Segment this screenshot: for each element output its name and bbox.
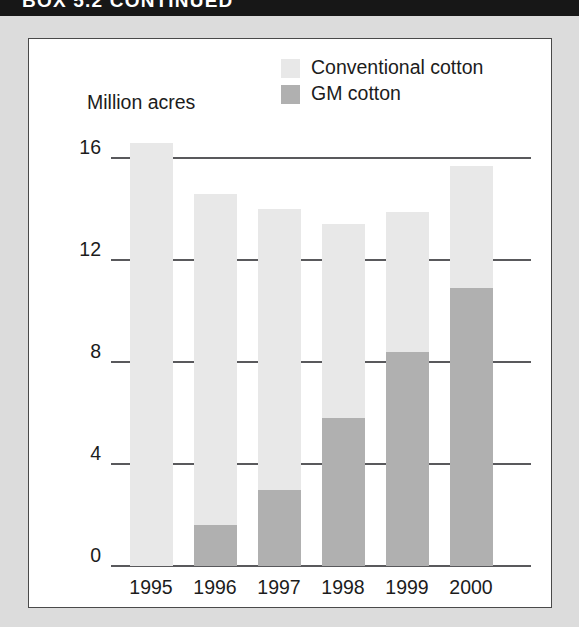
legend-item: GM cotton <box>281 81 531 107</box>
bar-segment-gm <box>194 525 237 566</box>
legend-item-label: Conventional cotton <box>311 58 483 78</box>
figure-page: BOX 5.2 CONTINUED 0481216199519961997199… <box>0 0 579 627</box>
bar-segment-gm <box>258 490 301 567</box>
y-axis-tick-label: 4 <box>49 442 101 465</box>
chart-bar <box>258 209 301 566</box>
bar-segment-conventional <box>450 166 493 288</box>
section-header-band: BOX 5.2 CONTINUED <box>0 0 579 16</box>
y-axis-tick-label: 16 <box>49 136 101 159</box>
chart-bar <box>194 194 237 566</box>
bar-segment-gm <box>386 352 429 566</box>
section-header-title: BOX 5.2 CONTINUED <box>22 0 234 12</box>
plot-area: 0481216199519961997199819992000 <box>29 39 552 608</box>
chart-bar <box>450 166 493 566</box>
legend-swatch-icon <box>281 85 300 104</box>
chart-bar <box>386 212 429 566</box>
chart-bar <box>322 224 365 566</box>
bar-segment-conventional <box>322 224 365 418</box>
x-axis-tick-label: 1998 <box>308 576 378 599</box>
legend-item-label: GM cotton <box>311 84 401 104</box>
bar-segment-gm <box>322 418 365 566</box>
x-axis-tick-label: 1996 <box>180 576 250 599</box>
y-axis-tick-label: 8 <box>49 340 101 363</box>
y-axis-title: Million acres <box>87 91 195 114</box>
legend-item: Conventional cotton <box>281 55 531 81</box>
bar-segment-conventional <box>258 209 301 490</box>
bar-segment-conventional <box>130 143 173 566</box>
x-axis-tick-label: 1995 <box>116 576 186 599</box>
x-axis-tick-label: 1999 <box>372 576 442 599</box>
y-axis-tick-label: 0 <box>49 544 101 567</box>
chart-bar <box>130 143 173 566</box>
chart-legend: Conventional cottonGM cotton <box>281 55 531 107</box>
x-axis-tick-label: 1997 <box>244 576 314 599</box>
legend-swatch-icon <box>281 59 300 78</box>
bar-segment-conventional <box>194 194 237 526</box>
y-axis-tick-label: 12 <box>49 238 101 261</box>
y-gridline <box>111 157 531 159</box>
x-axis-tick-label: 2000 <box>436 576 506 599</box>
chart-panel: 0481216199519961997199819992000 Conventi… <box>28 38 552 608</box>
bar-segment-conventional <box>386 212 429 352</box>
bar-segment-gm <box>450 288 493 566</box>
